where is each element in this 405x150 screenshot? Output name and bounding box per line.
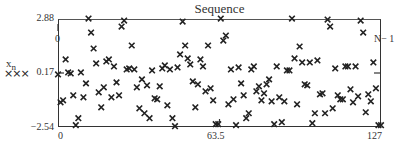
data-point-marker	[63, 57, 69, 63]
data-point-marker	[371, 60, 377, 66]
data-point-marker	[203, 89, 209, 95]
data-point-marker	[137, 105, 143, 111]
data-point-marker	[157, 84, 163, 90]
data-point-marker	[129, 43, 135, 49]
data-point-marker	[195, 82, 201, 88]
data-point-marker	[83, 81, 89, 87]
data-point-marker	[274, 64, 280, 70]
data-point-marker	[172, 123, 178, 129]
data-point-marker	[289, 16, 295, 22]
data-point-marker	[60, 97, 66, 103]
data-point-marker	[269, 98, 275, 104]
data-point-marker	[315, 58, 321, 64]
data-point-marker	[134, 85, 140, 91]
data-point-marker	[279, 119, 285, 125]
data-point-marker	[325, 17, 331, 23]
data-point-marker	[106, 57, 112, 63]
data-point-marker	[88, 30, 94, 36]
data-point-marker	[175, 65, 181, 71]
data-point-marker	[310, 120, 316, 126]
data-point-marker	[208, 86, 214, 92]
data-point-marker	[282, 98, 288, 104]
data-point-marker	[116, 93, 122, 99]
data-point-marker	[200, 64, 206, 70]
data-point-marker	[182, 43, 188, 49]
data-point-marker	[312, 110, 318, 116]
data-point-marker	[297, 44, 303, 50]
data-point-marker	[187, 62, 193, 68]
data-point-marker	[294, 101, 300, 107]
data-point-marker	[98, 104, 104, 110]
data-markers	[55, 16, 384, 129]
data-point-marker	[177, 52, 183, 58]
data-point-marker	[355, 94, 361, 100]
data-point-marker	[231, 97, 237, 103]
data-point-marker	[353, 64, 359, 70]
data-point-marker	[259, 97, 265, 103]
data-point-marker	[144, 83, 150, 89]
marker-lines	[58, 24, 381, 127]
data-point-marker	[96, 90, 102, 96]
data-point-marker	[193, 104, 199, 110]
data-point-marker	[218, 16, 224, 22]
data-point-marker	[261, 91, 267, 97]
data-point-marker	[251, 64, 257, 70]
data-point-marker	[322, 110, 328, 116]
data-point-marker	[91, 46, 97, 52]
data-point-marker	[86, 16, 92, 22]
data-point-marker	[350, 99, 356, 105]
data-point-marker	[205, 43, 211, 49]
data-point-marker	[292, 56, 298, 62]
data-point-marker	[330, 105, 336, 111]
data-point-marker	[81, 95, 87, 101]
data-point-marker	[185, 56, 191, 62]
data-point-marker	[332, 66, 338, 72]
data-point-marker	[167, 67, 173, 73]
data-point-marker	[170, 115, 176, 121]
data-point-marker	[190, 79, 196, 85]
data-point-marker	[147, 115, 153, 121]
data-point-marker	[228, 67, 234, 73]
data-point-marker	[358, 18, 364, 24]
data-point-marker	[111, 64, 117, 70]
data-point-marker	[210, 97, 216, 103]
data-point-marker	[271, 121, 277, 127]
data-point-marker	[149, 68, 155, 74]
data-point-marker	[93, 61, 99, 67]
data-point-marker	[327, 24, 333, 30]
data-point-marker	[76, 115, 82, 121]
plot-area	[0, 0, 405, 150]
data-point-marker	[78, 70, 84, 76]
data-point-marker	[233, 122, 239, 128]
data-point-marker	[180, 19, 186, 25]
data-point-marker	[73, 122, 79, 128]
data-point-marker	[142, 110, 148, 116]
data-point-marker	[119, 24, 125, 30]
data-point-marker	[70, 93, 76, 99]
data-point-marker	[348, 87, 354, 93]
data-point-marker	[365, 92, 371, 98]
data-point-marker	[363, 109, 369, 115]
data-point-marker	[114, 80, 120, 86]
data-point-marker	[109, 95, 115, 101]
data-point-marker	[373, 86, 379, 92]
data-point-marker	[241, 93, 247, 99]
data-point-marker	[165, 102, 171, 108]
data-point-marker	[238, 81, 244, 87]
data-point-marker	[139, 77, 145, 83]
data-point-marker	[131, 67, 137, 73]
data-point-marker	[299, 60, 305, 66]
data-point-marker	[307, 60, 313, 66]
data-point-marker	[368, 98, 374, 104]
data-point-marker	[101, 85, 107, 91]
data-point-marker	[360, 30, 366, 36]
data-point-marker	[236, 65, 242, 71]
data-point-marker	[198, 57, 204, 63]
data-point-marker	[121, 18, 127, 24]
data-point-marker	[226, 101, 232, 107]
